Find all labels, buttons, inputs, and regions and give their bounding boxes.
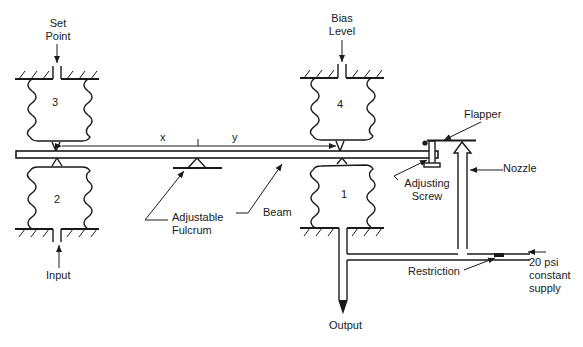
x-label: x	[160, 131, 166, 144]
bellows-3-number: 3	[52, 96, 58, 108]
nozzle	[454, 142, 471, 249]
nozzle-label: Nozzle	[503, 162, 537, 175]
bellows-4-number: 4	[337, 98, 343, 110]
flapper-label: Flapper	[464, 108, 501, 121]
y-label: y	[232, 131, 238, 144]
output-label: Output	[329, 319, 362, 332]
restriction	[494, 253, 504, 257]
adjusting-screw-label: Adjusting Screw	[401, 177, 453, 203]
bellows-3	[15, 66, 99, 151]
beam	[16, 151, 438, 158]
bellows-1-number: 1	[341, 188, 347, 200]
dimension-line	[62, 139, 336, 146]
beam-label: Beam	[263, 206, 292, 219]
restriction-label: Restriction	[408, 265, 460, 278]
adjustable-fulcrum	[173, 158, 222, 168]
adjustable-fulcrum-label: Adjustable Fulcrum	[172, 211, 223, 237]
input-label: Input	[46, 269, 70, 282]
supply-label: 20 psi constant supply	[529, 256, 571, 295]
bellows-2-number: 2	[54, 193, 60, 205]
bias-level-label: Bias Level	[324, 12, 360, 38]
controller-diagram	[0, 0, 583, 347]
set-point-label: Set Point	[40, 17, 76, 43]
